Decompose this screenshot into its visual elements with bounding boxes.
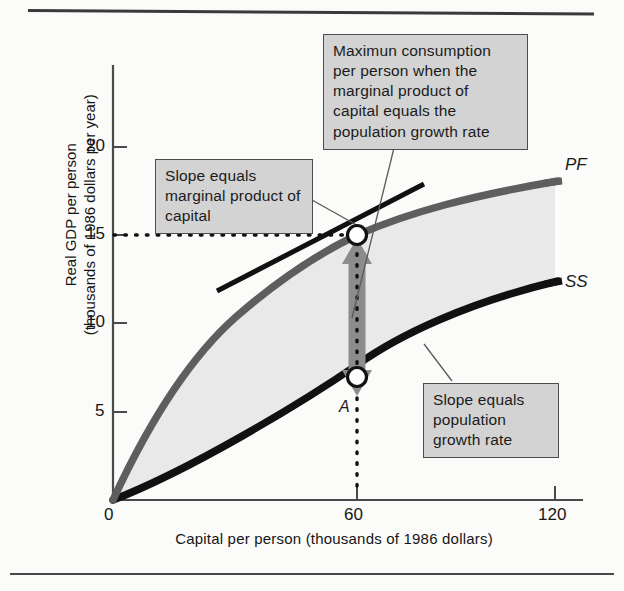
pf-label-leader — [545, 181, 562, 183]
figure-container: Real GDP per person (thousands of 1986 d… — [0, 0, 624, 591]
y-tick-label-15: 15 — [86, 224, 105, 244]
point-a-label: A — [339, 398, 350, 416]
y-tick-label-10: 10 — [86, 312, 105, 332]
x-tick-label-120: 120 — [538, 505, 566, 525]
x-tick-label-0: 0 — [104, 505, 113, 525]
ss-label-leader — [545, 281, 562, 284]
x-tick-label-60: 60 — [344, 505, 363, 525]
annotation-marginal-product: Slope equals marginal product of capital — [155, 159, 313, 234]
annotation-population-growth: Slope equals population growth rate — [423, 383, 559, 458]
y-tick-label-20: 20 — [86, 136, 105, 156]
leader-line-marginal-product — [312, 200, 362, 228]
x-axis-title: Capital per person (thousands of 1986 do… — [113, 530, 555, 547]
point-marker-pf[interactable] — [348, 226, 367, 245]
y-axis-title-line1: Real GDP per person — [62, 65, 81, 365]
leader-line-population-growth — [424, 344, 452, 381]
ss-curve-label: SS — [565, 272, 588, 292]
point-marker-a[interactable] — [348, 368, 367, 387]
pf-curve-label: PF — [565, 155, 587, 175]
annotation-max-consumption: Maximun consumption per person when the … — [323, 34, 528, 150]
y-tick-label-5: 5 — [95, 401, 104, 421]
